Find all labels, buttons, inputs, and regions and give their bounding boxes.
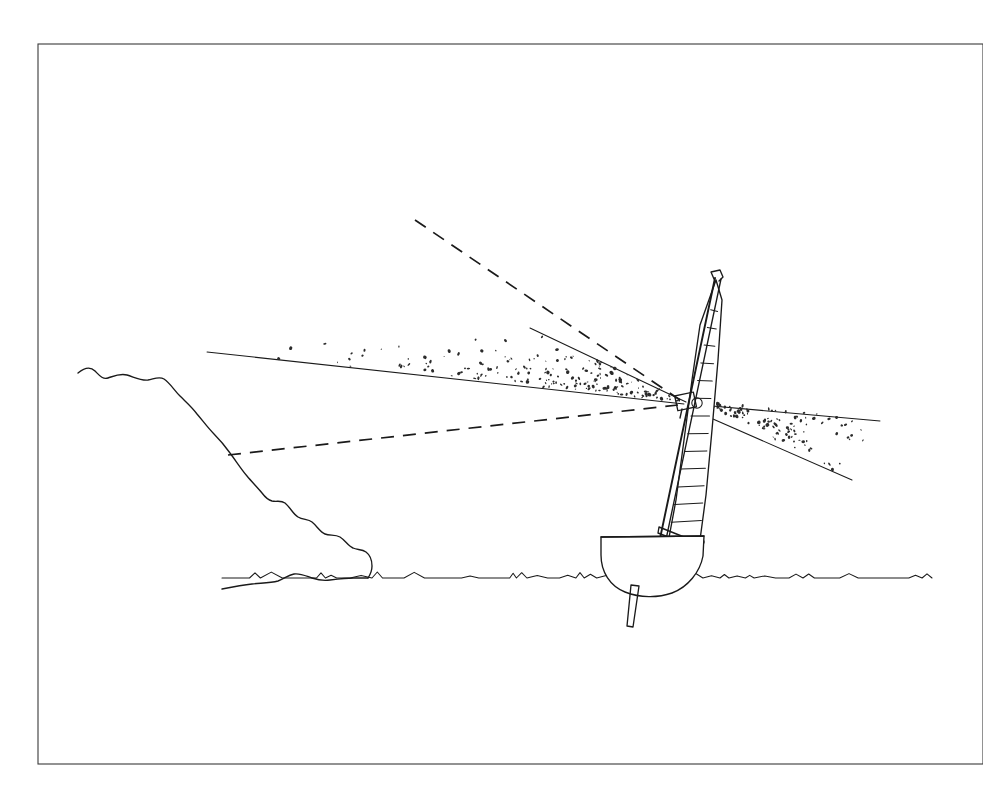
- stipple-dot: [584, 369, 588, 372]
- upper-left-stippled-cone: [207, 328, 686, 404]
- stipple-dot: [549, 374, 552, 377]
- stipple-dot: [835, 432, 839, 436]
- right-cone-lower-edge: [697, 412, 852, 480]
- stipple-dot: [621, 385, 625, 388]
- stipple-dot: [586, 388, 588, 389]
- stipple-dot: [565, 356, 567, 358]
- right-stippled-cone: [697, 399, 880, 480]
- stipple-dot: [427, 365, 430, 368]
- stipple-dot: [793, 429, 796, 433]
- stipple-dot: [288, 346, 292, 351]
- stipple-dot: [774, 438, 776, 441]
- stipple-dot: [828, 462, 832, 466]
- stipple-dot: [848, 438, 850, 440]
- stipple-dot: [473, 377, 477, 379]
- stipple-dot: [860, 429, 862, 431]
- stipple-dot: [381, 348, 383, 350]
- stipple-dot: [583, 382, 587, 385]
- stipple-dot: [790, 423, 793, 425]
- stipple-dot: [476, 373, 478, 375]
- stipple-dot: [758, 424, 760, 426]
- stipple-dot: [594, 362, 597, 365]
- stipple-dot: [398, 345, 399, 347]
- stipple-dot: [545, 368, 547, 371]
- stipple-dot: [723, 405, 726, 408]
- stipple-dot: [767, 418, 769, 420]
- stipple-dot: [545, 370, 550, 375]
- stipple-dot: [429, 359, 432, 363]
- stipple-dot: [407, 363, 411, 367]
- stipple-dot: [591, 384, 595, 389]
- stipple-dot: [772, 425, 775, 429]
- stipple-dot: [447, 349, 451, 354]
- stipple-dot: [794, 433, 797, 435]
- stipple-dot: [588, 360, 590, 362]
- stipple-dot: [844, 423, 848, 426]
- stipple-dot: [529, 367, 531, 369]
- stipple-dot: [626, 383, 629, 385]
- stipple-dot: [582, 367, 585, 370]
- stipple-dot: [820, 421, 823, 424]
- stipple-dot: [787, 430, 791, 433]
- stipple-dot: [575, 379, 577, 382]
- stipple-dot: [553, 383, 555, 385]
- stipple-dot: [564, 358, 566, 360]
- hull-outline: [601, 536, 704, 597]
- stipple-dot: [572, 356, 574, 357]
- stipple-dot: [503, 339, 507, 343]
- stipple-dot: [799, 419, 802, 423]
- stipple-dot: [794, 447, 796, 449]
- stipple-dot: [741, 404, 744, 408]
- stipple-dot: [467, 368, 471, 370]
- stipple-dot: [522, 365, 526, 369]
- stipple-dot: [615, 379, 617, 383]
- stipple-dot: [798, 440, 800, 441]
- stipple-dot: [555, 358, 559, 362]
- stipple-dot: [768, 407, 770, 411]
- stipple-dot: [840, 424, 843, 427]
- stipple-dot: [839, 463, 841, 465]
- masthead-crane-icon: [711, 270, 723, 281]
- stipple-dot: [765, 422, 770, 427]
- right-cone-upper-edge: [701, 405, 880, 421]
- cliff-foreshore: [222, 574, 368, 589]
- stipple-dot: [633, 395, 635, 398]
- stipple-dot: [862, 439, 864, 442]
- detection-cones: [207, 328, 880, 480]
- stipple-dot: [497, 372, 499, 374]
- stipple-dot: [526, 367, 528, 369]
- stipple-dot: [767, 420, 770, 423]
- stipple-dot: [638, 387, 639, 389]
- stipple-dot: [724, 412, 727, 416]
- stipple-dot: [730, 415, 733, 418]
- stipple-dot: [555, 381, 557, 384]
- stipple-dot: [599, 365, 600, 367]
- right-cone-stipple: [703, 399, 864, 471]
- stipple-dot: [557, 375, 560, 378]
- stipple-dot: [747, 422, 750, 425]
- stipple-dot: [443, 356, 445, 357]
- stipple-dot: [526, 380, 530, 384]
- stipple-dot: [816, 413, 818, 415]
- stipple-dot: [527, 371, 531, 375]
- stipple-dot: [776, 418, 778, 420]
- stipple-dot: [587, 381, 589, 382]
- stipple-dot: [495, 350, 497, 352]
- stipple-dot: [616, 392, 618, 393]
- stipple-dot: [617, 393, 619, 395]
- stipple-dot: [520, 380, 523, 382]
- stipple-dot: [747, 412, 748, 414]
- stipple-dot: [742, 417, 744, 419]
- stipple-dot: [350, 352, 353, 355]
- stipple-dot: [598, 390, 601, 392]
- stipple-dot: [772, 436, 774, 437]
- stipple-dot: [805, 417, 806, 419]
- stipple-dot: [565, 368, 568, 370]
- stipple-dot: [361, 354, 364, 357]
- stipple-dot: [669, 398, 671, 400]
- stipple-dot: [793, 440, 795, 442]
- stipple-dot: [625, 393, 628, 397]
- stipple-dot: [806, 440, 808, 442]
- stipple-dot: [596, 374, 600, 377]
- stipple-dot: [756, 420, 761, 425]
